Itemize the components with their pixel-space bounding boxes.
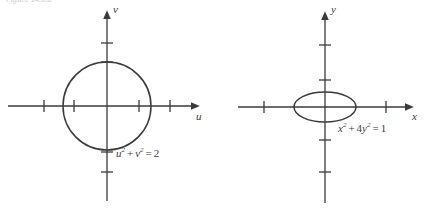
u-axis-label: u — [196, 110, 202, 122]
plot-canvas — [0, 0, 424, 213]
figure-root: Figure 14.9.8 — [0, 0, 424, 213]
eq-right-exp-y: 2 — [367, 121, 371, 129]
y-axis-label: y — [331, 3, 336, 15]
eq-left-value: 2 — [154, 147, 160, 159]
x-axis-label: x — [412, 110, 417, 122]
xy-plane-plot — [238, 19, 406, 203]
eq-left-equals: = — [144, 147, 154, 159]
eq-right-value: 1 — [381, 122, 387, 134]
equation-label-ellipse: x2+4y2=1 — [338, 122, 386, 134]
eq-left-operator: + — [125, 147, 135, 159]
equation-label-circle: u2+v2=2 — [116, 147, 159, 159]
eq-right-equals: = — [371, 122, 381, 134]
uv-plane-plot — [8, 18, 192, 201]
eq-right-operator: + — [346, 122, 356, 134]
v-axis-label: v — [113, 3, 118, 15]
